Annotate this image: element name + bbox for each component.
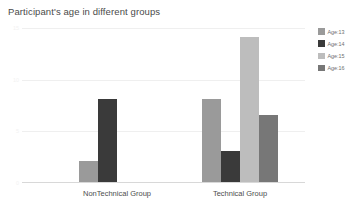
legend-item-label: Age:15	[328, 53, 345, 59]
bar-chart: Participant's age in different groups 05…	[0, 0, 360, 204]
bar[interactable]	[240, 37, 259, 182]
bar[interactable]	[259, 115, 278, 182]
y-axis-tick-label: 0	[16, 180, 19, 186]
plot-area: 051015 NonTechnical GroupTechnical Group	[22, 28, 305, 183]
x-axis-category-label: NonTechnical Group	[83, 189, 151, 198]
x-axis-line	[22, 182, 305, 183]
bar-group: NonTechnical Group	[79, 27, 155, 182]
bars	[202, 27, 278, 182]
y-axis-tick-label: 15	[13, 25, 19, 31]
bar[interactable]	[202, 99, 221, 182]
y-axis-tick-label: 10	[13, 77, 19, 83]
legend-item[interactable]: Age:13	[318, 28, 345, 35]
legend-swatch-icon	[318, 53, 325, 60]
chart-legend: Age:13Age:14Age:15Age:16	[318, 28, 345, 72]
legend-item-label: Age:14	[328, 41, 345, 47]
legend-swatch-icon	[318, 28, 325, 35]
legend-swatch-icon	[318, 65, 325, 72]
bar[interactable]	[98, 99, 117, 182]
bar[interactable]	[79, 161, 98, 182]
legend-item-label: Age:16	[328, 65, 345, 71]
bar[interactable]	[221, 151, 240, 182]
legend-item[interactable]: Age:15	[318, 52, 345, 59]
chart-title: Participant's age in different groups	[8, 6, 160, 17]
legend-item[interactable]: Age:16	[318, 65, 345, 72]
legend-item-label: Age:13	[328, 29, 345, 35]
legend-swatch-icon	[318, 40, 325, 47]
y-axis-tick-label: 5	[16, 128, 19, 134]
bars	[79, 27, 155, 182]
x-axis-category-label: Technical Group	[213, 189, 267, 198]
bar-group: Technical Group	[202, 27, 278, 182]
legend-item[interactable]: Age:14	[318, 40, 345, 47]
